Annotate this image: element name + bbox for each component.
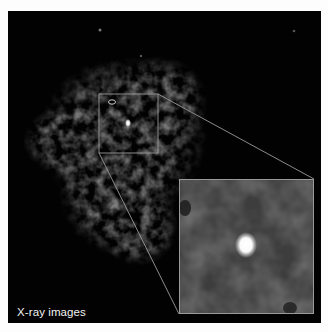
point-source-zoomed bbox=[235, 232, 257, 258]
xray-image: X-ray images bbox=[8, 11, 321, 323]
zoom-inset bbox=[179, 179, 314, 314]
figure-label: X-ray images bbox=[17, 306, 86, 318]
point-source bbox=[125, 119, 131, 127]
